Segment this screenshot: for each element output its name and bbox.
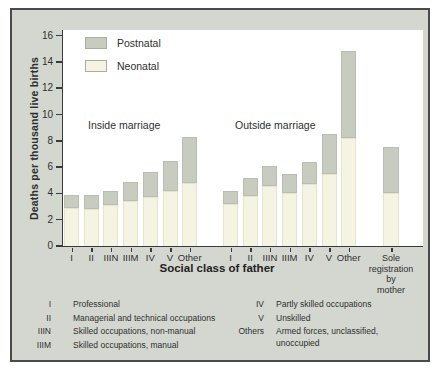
x-tick [150,248,152,252]
chart-legend: Postnatal Neonatal [85,36,161,82]
bar-1-4-neonatal [302,184,317,246]
page: { "chart_data": { "type": "bar", "stacke… [0,0,438,372]
y-tick-label: 2 [31,214,53,226]
x-axis-title: Social class of father [72,262,362,274]
bar-0-6-postnatal [182,137,197,183]
y-tick [56,114,63,116]
x-tick [91,248,93,252]
bar-1-2-postnatal [262,166,277,186]
bar-2-0-postnatal [383,147,399,193]
footnote-term: V [222,312,264,324]
bar-1-3-neonatal [282,193,297,246]
footnote-definition: Professional [73,298,215,310]
y-tick-label: 0 [31,240,53,252]
bar-0-5-neonatal [163,191,178,246]
x-tick [72,248,74,252]
chart-panel: Deaths per thousand live births Postnata… [10,8,430,362]
x-tick [290,248,292,252]
y-tick-label: 16 [31,30,53,42]
legend-item-postnatal: Postnatal [85,36,161,50]
y-tick [56,87,63,89]
y-tick-label: 10 [31,109,53,121]
y-tick [56,61,63,63]
bar-1-3-postnatal [282,174,297,194]
bar-0-0-neonatal [64,208,79,246]
bar-0-3-postnatal [123,182,138,202]
footnote-gap [264,325,276,349]
footnote-term: IIIN [17,325,51,337]
bar-1-5-postnatal [322,134,337,173]
bar-0-1-postnatal [84,195,99,209]
bar-1-1-postnatal [243,178,258,196]
bar-1-0-postnatal [223,191,238,204]
bar-0-4-neonatal [143,197,158,246]
footnote-gap [264,298,276,310]
legend-label-postnatal: Postnatal [117,37,161,49]
y-tick [56,193,63,195]
footnote-definition: Partly skilled occupations [276,298,406,310]
bar-0-5-postnatal [163,161,178,191]
legend-label-neonatal: Neonatal [117,60,159,72]
x-tick [270,248,272,252]
legend-item-neonatal: Neonatal [85,59,161,73]
bar-1-5-neonatal [322,174,337,246]
bar-0-2-postnatal [103,191,118,205]
x-tick [190,248,192,252]
footnotes-right-column: IVPartly skilled occupationsVUnskilledOt… [222,298,406,349]
bar-0-0-postnatal [64,195,79,208]
footnote-gap [51,339,73,351]
y-tick-label: 14 [31,56,53,68]
y-tick-label: 4 [31,187,53,199]
x-tick [329,248,331,252]
footnote-term: II [17,312,51,324]
bar-1-1-neonatal [243,196,258,246]
footnote-definition: Skilled occupations, manual [73,339,215,351]
bar-0-2-neonatal [103,205,118,246]
footnote-term: IV [222,298,264,310]
x-tick [131,248,133,252]
footnote-definition: Skilled occupations, non-manual [73,325,215,337]
y-tick [56,245,63,247]
bar-1-4-postnatal [302,162,317,184]
bar-1-0-neonatal [223,204,238,246]
footnote-gap [51,298,73,310]
footnote-gap [51,325,73,337]
group-label-inside-marriage: Inside marriage [88,119,160,131]
bar-1-6-neonatal [341,138,356,246]
y-tick [56,35,63,37]
bar-0-3-neonatal [123,201,138,246]
bar-1-6-postnatal [341,51,356,138]
y-tick-label: 8 [31,135,53,147]
x-tick [309,248,311,252]
group-label-outside-marriage: Outside marriage [235,119,316,131]
x-tick [231,248,233,252]
bar-0-4-postnatal [143,172,158,197]
y-tick [56,166,63,168]
legend-swatch-postnatal [85,37,107,49]
footnotes-left-column: IProfessionalIIManagerial and technical … [17,298,215,351]
x-tick [391,248,393,252]
bar-0-1-neonatal [84,209,99,246]
bar-0-6-neonatal [182,183,197,246]
x-tick [170,248,172,252]
x-category-label-2-0: Sole registration by mother [363,253,419,295]
y-tick-label: 12 [31,82,53,94]
bar-1-2-neonatal [262,186,277,246]
plot-area: Postnatal Neonatal Inside marriage Outsi… [62,30,423,247]
y-tick [56,140,63,142]
footnote-definition: Unskilled [276,312,406,324]
footnote-definition: Managerial and technical occupations [73,312,215,324]
bar-2-0-neonatal [383,193,399,246]
footnote-definition: Armed forces, unclassified, unoccupied [276,325,406,349]
footnote-term: IIIM [17,339,51,351]
footnote-gap [51,312,73,324]
x-tick [349,248,351,252]
footnote-term: I [17,298,51,310]
y-tick [56,219,63,221]
legend-swatch-neonatal [85,60,107,72]
footnote-gap [264,312,276,324]
y-tick-label: 6 [31,161,53,173]
x-tick [111,248,113,252]
footnote-term: Others [222,325,264,349]
x-tick [250,248,252,252]
